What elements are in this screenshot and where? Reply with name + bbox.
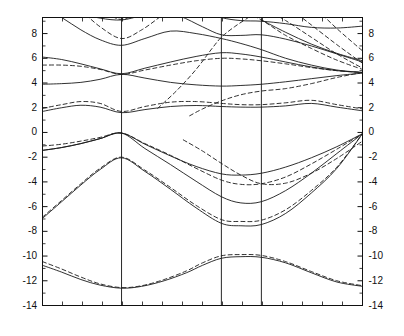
band-curve-solid-band-1 <box>43 257 363 289</box>
band-curve-dashed-band-16 <box>318 10 363 51</box>
band-curve-solid-band-7 <box>43 53 363 74</box>
y-tick-label-left: 2 <box>4 103 37 113</box>
y-tick-label-right: 6 <box>369 53 375 63</box>
plot-canvas <box>0 0 404 336</box>
band-curve-dashed-band-2 <box>43 134 363 222</box>
y-tick-label-left: -2 <box>4 152 37 162</box>
y-tick-label-left: -6 <box>4 202 37 212</box>
y-tick-label-left: 4 <box>4 78 37 88</box>
y-tick-label-right: -12 <box>369 276 383 286</box>
y-tick-label-left: 6 <box>4 53 37 63</box>
y-tick-label-right: 8 <box>369 29 375 39</box>
band-curves <box>43 0 363 288</box>
y-tick-label-right: -2 <box>369 152 378 162</box>
band-structure-figure: 86420-2-4-6-8-10-12-14 86420-2-4-6-8-10-… <box>0 0 404 336</box>
y-tick-label-left: -14 <box>4 301 37 311</box>
band-curve-dashed-band-14 <box>267 10 363 68</box>
axis-major-ticks <box>43 34 363 306</box>
band-curve-dashed-band-11 <box>190 73 363 116</box>
y-tick-label-right: -14 <box>369 301 383 311</box>
y-tick-label-left: -12 <box>4 276 37 286</box>
band-curve-solid-band-10 <box>261 20 362 61</box>
y-tick-label-left: -4 <box>4 177 37 187</box>
band-curve-solid-band-9 <box>43 0 363 62</box>
symmetry-point-lines <box>122 18 262 306</box>
y-tick-label-right: 2 <box>369 103 375 113</box>
y-tick-label-right: -4 <box>369 177 378 187</box>
y-tick-label-right: 0 <box>369 127 375 137</box>
y-tick-label-right: -8 <box>369 226 378 236</box>
band-curve-dashed-band-10 <box>183 140 362 185</box>
band-curve-solid-band-12 <box>122 10 213 14</box>
band-curve-dashed-band-9 <box>81 3 180 39</box>
y-tick-label-left: 8 <box>4 29 37 39</box>
band-curve-solid-band-6 <box>43 73 363 86</box>
y-tick-label-left: -8 <box>4 226 37 236</box>
y-tick-label-right: -10 <box>369 251 383 261</box>
y-tick-label-right: -6 <box>369 202 378 212</box>
y-tick-label-left: 0 <box>4 127 37 137</box>
band-curve-solid-band-2 <box>43 134 363 226</box>
y-tick-label-left: -10 <box>4 251 37 261</box>
band-curve-solid-band-5 <box>43 103 363 112</box>
band-curve-dashed-band-18 <box>43 10 88 17</box>
y-tick-label-right: 4 <box>369 78 375 88</box>
band-curve-solid-band-4 <box>43 133 363 204</box>
